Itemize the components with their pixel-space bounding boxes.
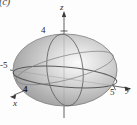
y-tick-negative-5: -5: [0, 61, 8, 70]
x-tick-4: 4: [23, 85, 28, 94]
y-tick-5: 5: [110, 88, 115, 97]
y-axis-label: y: [126, 85, 130, 94]
plot-canvas: [0, 0, 137, 125]
ellipsoid-figure: (c): [0, 0, 137, 125]
z-tick-4: 4: [41, 26, 46, 35]
ellipsoid-surface: [13, 34, 117, 106]
z-axis-label: z: [60, 3, 64, 12]
x-axis-label: x: [13, 99, 17, 108]
